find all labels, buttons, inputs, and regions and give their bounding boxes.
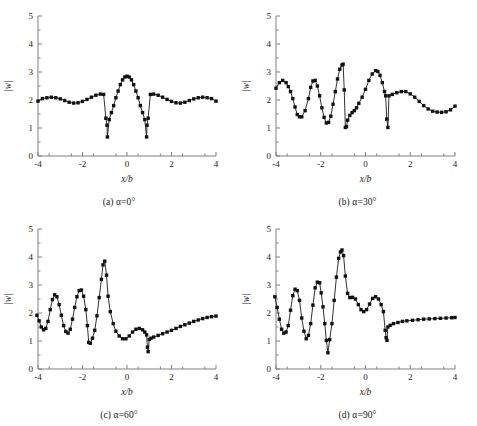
data-point-marker [156, 94, 159, 97]
data-point-marker [360, 96, 363, 99]
y-axis-title: |w| [241, 293, 251, 305]
data-point-marker [404, 90, 407, 93]
x-tick-label: 0 [363, 372, 368, 382]
data-point-marker [435, 110, 438, 113]
y-tick-label: 1 [29, 123, 34, 133]
data-point-marker [214, 314, 217, 317]
data-point-marker [205, 96, 208, 99]
x-tick-label: -4 [34, 372, 42, 382]
data-point-marker [298, 299, 301, 302]
data-point-marker [174, 327, 177, 330]
data-point-marker [325, 339, 328, 342]
data-point-marker [346, 292, 349, 295]
data-point-marker [376, 70, 379, 73]
data-point-marker [287, 324, 290, 327]
panel-caption-b: (b) α=30° [238, 197, 477, 207]
chart-panel-a: 012345-4-2024x/b|w| (a) α=0° [0, 0, 238, 213]
data-point-marker [174, 101, 177, 104]
data-point-marker [104, 117, 107, 120]
data-point-marker [210, 97, 213, 100]
data-point-marker [149, 93, 152, 96]
data-point-marker [128, 334, 131, 337]
data-point-marker [345, 125, 348, 128]
data-point-marker [386, 126, 389, 129]
data-point-marker [428, 317, 431, 320]
data-point-marker [91, 337, 94, 340]
data-point-marker [62, 324, 65, 327]
data-point-marker [336, 77, 339, 80]
data-point-marker [418, 100, 421, 103]
data-point-marker [161, 332, 164, 335]
data-point-marker [66, 331, 69, 334]
data-point-marker [105, 274, 108, 277]
data-point-marker [46, 320, 49, 323]
data-point-marker [322, 116, 325, 119]
data-point-marker [105, 124, 108, 127]
data-point-marker [201, 317, 204, 320]
panel-caption-a: (a) α=0° [0, 197, 238, 207]
y-tick-label: 4 [267, 39, 272, 49]
data-point-marker [444, 316, 447, 319]
data-point-marker [316, 84, 319, 87]
data-point-marker [201, 96, 204, 99]
data-point-marker [400, 90, 403, 93]
x-tick-label: 0 [363, 159, 368, 169]
data-point-marker [368, 302, 371, 305]
data-point-marker [274, 87, 277, 90]
data-point-marker [450, 316, 453, 319]
data-point-marker [391, 93, 394, 96]
data-point-marker [156, 334, 159, 337]
y-tick-label: 2 [29, 308, 34, 318]
chart-panel-c: 012345-4-2024x/b|w| (c) α=60° [0, 213, 238, 426]
x-tick-label: 0 [125, 372, 130, 382]
data-series-line [38, 76, 216, 137]
data-point-marker [346, 118, 349, 121]
data-point-marker [309, 86, 312, 89]
y-tick-label: 0 [29, 364, 34, 374]
data-point-marker [214, 99, 217, 102]
data-point-marker [357, 303, 360, 306]
data-point-marker [99, 92, 102, 95]
data-point-marker [371, 297, 374, 300]
data-point-marker [344, 274, 347, 277]
x-tick-label: 4 [214, 159, 219, 169]
y-tick-label: 0 [267, 151, 272, 161]
data-point-marker [44, 327, 47, 330]
data-point-marker [426, 107, 429, 110]
data-point-marker [165, 98, 168, 101]
y-tick-label: 2 [267, 308, 272, 318]
data-point-marker [300, 316, 303, 319]
data-point-marker [388, 324, 391, 327]
data-point-marker [100, 278, 103, 281]
data-point-marker [143, 118, 146, 121]
data-point-marker [296, 289, 299, 292]
data-point-marker [327, 121, 330, 124]
data-point-marker [55, 295, 58, 298]
data-point-marker [311, 303, 314, 306]
data-point-marker [141, 111, 144, 114]
data-point-marker [197, 318, 200, 321]
x-tick-label: 2 [408, 372, 413, 382]
data-point-marker [449, 108, 452, 111]
data-point-marker [275, 306, 278, 309]
y-tick-label: 3 [267, 280, 272, 290]
data-point-marker [93, 329, 96, 332]
x-axis-title: x/b [120, 174, 133, 184]
data-point-marker [89, 342, 92, 345]
data-point-marker [365, 308, 368, 311]
x-tick-label: -2 [79, 159, 87, 169]
data-point-marker [95, 314, 98, 317]
data-point-marker [338, 68, 341, 71]
data-point-marker [60, 314, 63, 317]
x-tick-label: -4 [34, 159, 42, 169]
data-point-marker [165, 330, 168, 333]
data-point-marker [328, 338, 331, 341]
y-tick-label: 4 [29, 252, 34, 262]
data-point-marker [291, 97, 294, 100]
data-point-marker [382, 310, 385, 313]
data-point-marker [332, 299, 335, 302]
data-point-marker [114, 96, 117, 99]
data-point-marker [67, 101, 70, 104]
data-point-marker [179, 101, 182, 104]
plot-svg-d: 012345-4-2024x/b|w| [238, 213, 477, 426]
